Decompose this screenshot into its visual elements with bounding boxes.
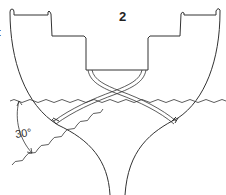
hull-diagram	[0, 0, 226, 195]
heel-angle-label: 30°	[14, 126, 32, 140]
support-straps	[54, 70, 176, 124]
compartment-label: 2	[119, 9, 126, 24]
hull-left-wall	[10, 12, 110, 195]
strap-fittings	[52, 117, 178, 124]
hull-right-wall	[125, 12, 220, 195]
partial-edge-label: t	[0, 26, 1, 38]
waterline-level	[10, 100, 226, 103]
compartment-outline	[10, 9, 220, 70]
